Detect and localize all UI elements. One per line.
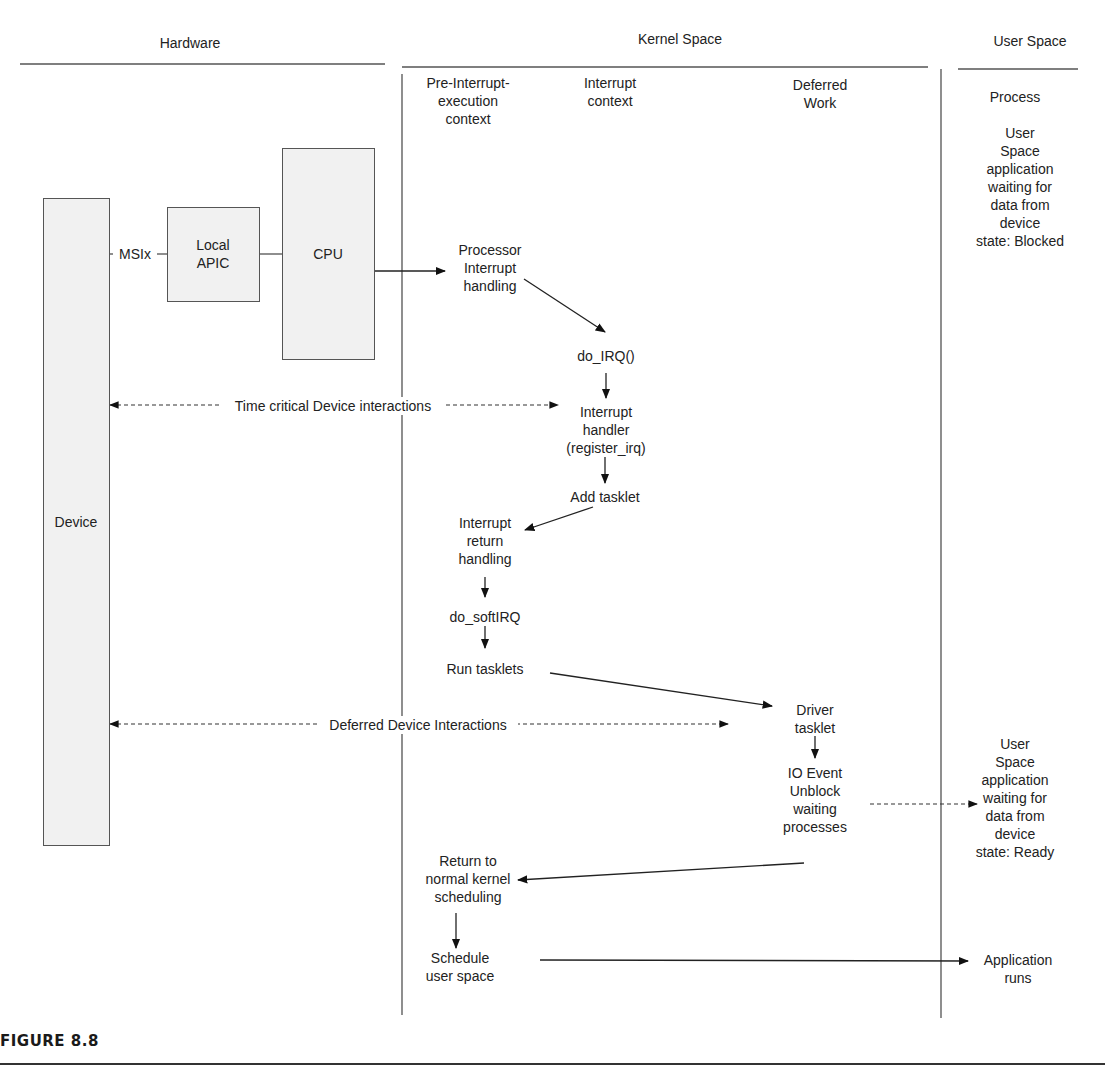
node-io-event: IO Event Unblock waiting processes <box>770 764 860 836</box>
local-apic-label: Local APIC <box>168 236 258 272</box>
local-apic-box: Local APIC <box>167 207 260 302</box>
node-interrupt-handler: Interrupt handler (register_irq) <box>550 403 662 457</box>
node-do-irq: do_IRQ() <box>556 347 656 365</box>
subcolumn-interrupt: Interrupt context <box>560 74 660 110</box>
node-do-softirq: do_softIRQ <box>430 608 540 626</box>
node-processor-interrupt: Processor Interrupt handling <box>440 241 540 295</box>
node-driver-tasklet: Driver tasklet <box>775 701 855 737</box>
cpu-label: CPU <box>283 245 373 263</box>
node-run-tasklets: Run tasklets <box>430 660 540 678</box>
device-box: Device <box>43 198 110 846</box>
column-header-kernel: Kernel Space <box>600 30 760 48</box>
column-header-hardware: Hardware <box>120 34 260 52</box>
msix-label: MSIx <box>112 245 158 263</box>
node-add-tasklet: Add tasklet <box>555 488 655 506</box>
column-header-user: User Space <box>960 32 1100 50</box>
user-state-ready: User Space application waiting for data … <box>960 735 1070 861</box>
user-state-blocked: User Space application waiting for data … <box>965 124 1075 250</box>
cpu-box: CPU <box>282 148 375 360</box>
node-schedule-user: Schedule user space <box>415 949 505 985</box>
subcolumn-deferred: Deferred Work <box>770 76 870 112</box>
figure-caption: FIGURE 8.8 <box>0 1032 99 1050</box>
time-critical-label: Time critical Device interactions <box>222 397 444 415</box>
node-return-normal: Return to normal kernel scheduling <box>418 852 518 906</box>
subcolumn-pre-interrupt: Pre-Interrupt- execution context <box>408 74 528 128</box>
subcolumn-process: Process <box>965 88 1065 106</box>
node-interrupt-return: Interrupt return handling <box>440 514 530 568</box>
device-label: Device <box>44 513 108 531</box>
user-state-runs: Application runs <box>968 951 1068 987</box>
deferred-interactions-label: Deferred Device Interactions <box>318 716 518 734</box>
diagram-connectors <box>0 0 1105 1069</box>
